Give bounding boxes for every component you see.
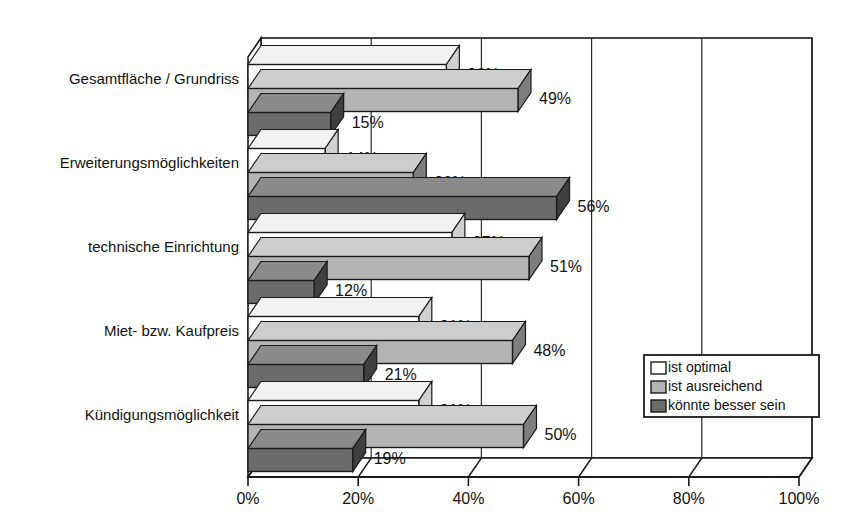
- bar-top-face: [248, 94, 344, 113]
- bar-value-label: 15%: [352, 114, 384, 131]
- bar-value-label: 12%: [335, 282, 367, 299]
- bar-top-face: [248, 46, 459, 65]
- bar-top-face: [248, 130, 338, 149]
- bar-top-face: [248, 214, 465, 233]
- legend-swatch: [651, 362, 666, 374]
- category-label: technische Einrichtung: [88, 238, 239, 255]
- bar-top-face: [248, 70, 531, 89]
- bar-top-face: [248, 238, 542, 257]
- bar-top-face: [248, 178, 570, 197]
- category-label: Miet- bzw. Kaufpreis: [104, 322, 239, 339]
- bar-value-label: 56%: [578, 198, 610, 215]
- x-axis-tick-label: 80%: [673, 490, 705, 507]
- legend-item: könnte besser sein: [651, 397, 786, 413]
- bar-value-label: 51%: [550, 258, 582, 275]
- chart-container: 0%20%40%60%80%100%Gesamtfläche / Grundri…: [0, 0, 861, 529]
- x-axis-tick-label: 20%: [342, 490, 374, 507]
- category-label: Kündigungsmöglichkeit: [85, 406, 240, 423]
- legend-label: könnte besser sein: [668, 397, 786, 413]
- bar-top-face: [248, 154, 426, 173]
- legend-swatch: [651, 381, 666, 393]
- legend-label: ist optimal: [668, 359, 731, 375]
- bar-value-label: 50%: [545, 426, 577, 443]
- category-label: Gesamtfläche / Grundriss: [69, 70, 239, 87]
- bar-chart: 0%20%40%60%80%100%Gesamtfläche / Grundri…: [0, 0, 861, 529]
- legend-item: ist ausreichend: [651, 378, 762, 394]
- bar-top-face: [248, 406, 537, 425]
- bar-front-face: [248, 449, 353, 472]
- bar-top-face: [248, 298, 432, 317]
- bar-top-face: [248, 262, 327, 281]
- bar-value-label: 19%: [374, 450, 406, 467]
- x-axis-tick-label: 0%: [236, 490, 259, 507]
- bar-group: [248, 430, 366, 472]
- legend-label: ist ausreichend: [668, 378, 762, 394]
- x-axis-tick-label: 40%: [452, 490, 484, 507]
- bar-top-face: [248, 382, 432, 401]
- x-axis-tick-label: 100%: [779, 490, 820, 507]
- category-label: Erweiterungsmöglichkeiten: [60, 154, 239, 171]
- x-axis-tick-label: 60%: [563, 490, 595, 507]
- bar-value-label: 21%: [385, 366, 417, 383]
- bar-value-label: 49%: [539, 90, 571, 107]
- bar-top-face: [248, 322, 525, 341]
- bar-top-face: [248, 346, 377, 365]
- bar-value-label: 48%: [533, 342, 565, 359]
- bar-top-face: [248, 430, 366, 449]
- legend-swatch: [651, 400, 666, 412]
